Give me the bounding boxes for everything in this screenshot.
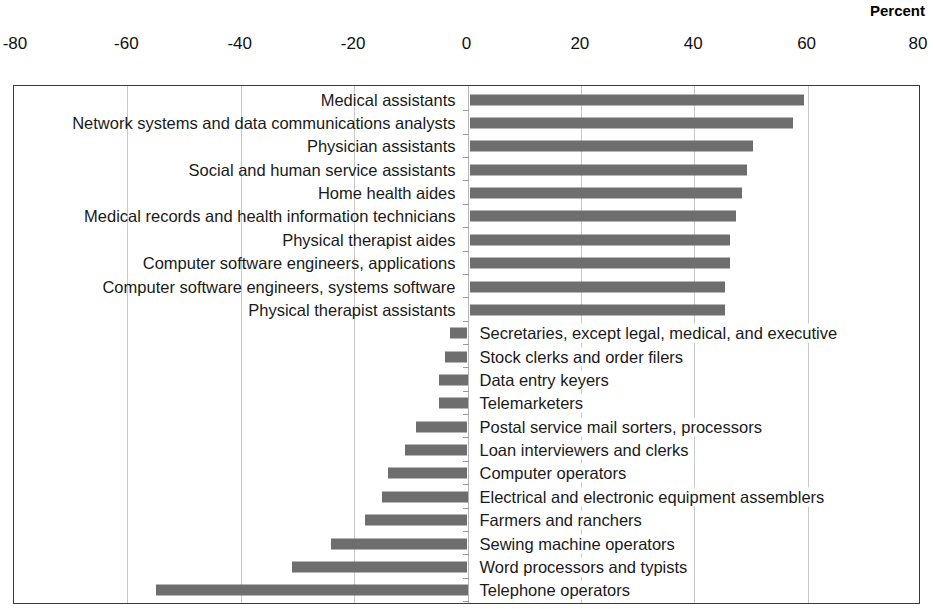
chart-row: Home health aides bbox=[14, 181, 919, 204]
category-label: Network systems and data communications … bbox=[72, 114, 455, 133]
bar bbox=[156, 585, 468, 596]
bar bbox=[470, 94, 804, 105]
chart-row: Data entry keyers bbox=[14, 368, 919, 391]
bar bbox=[470, 211, 736, 222]
category-label: Physician assistants bbox=[307, 137, 456, 156]
bar bbox=[331, 538, 467, 549]
chart-row: Telephone operators bbox=[14, 579, 919, 602]
bar bbox=[382, 491, 467, 502]
x-tick-label-0: 0 bbox=[462, 34, 471, 54]
bar bbox=[292, 561, 468, 572]
chart-row: Computer software engineers, systems sof… bbox=[14, 275, 919, 298]
category-label: Computer software engineers, application… bbox=[143, 254, 456, 273]
x-tick-label-neg20: -20 bbox=[341, 34, 366, 54]
bar bbox=[470, 118, 793, 129]
bar bbox=[365, 515, 467, 526]
bar bbox=[470, 141, 753, 152]
x-tick-label-40: 40 bbox=[684, 34, 703, 54]
category-label: Word processors and typists bbox=[476, 557, 688, 576]
x-tick-label-neg40: -40 bbox=[227, 34, 252, 54]
chart-row: Telemarketers bbox=[14, 392, 919, 415]
bar bbox=[416, 421, 467, 432]
bar bbox=[450, 328, 467, 339]
category-label: Data entry keyers bbox=[476, 371, 609, 390]
category-label: Postal service mail sorters, processors bbox=[476, 417, 762, 436]
x-tick-label-80: 80 bbox=[909, 34, 928, 54]
chart-row: Network systems and data communications … bbox=[14, 111, 919, 134]
x-tick-label-neg80: -80 bbox=[3, 34, 28, 54]
category-label: Medical records and health information t… bbox=[84, 207, 455, 226]
chart-row: Loan interviewers and clerks bbox=[14, 438, 919, 461]
chart-row: Farmers and ranchers bbox=[14, 509, 919, 532]
chart-row: Physician assistants bbox=[14, 135, 919, 158]
bar bbox=[470, 164, 748, 175]
bar bbox=[470, 234, 731, 245]
chart-row: Physical therapist assistants bbox=[14, 298, 919, 321]
bar bbox=[470, 188, 742, 199]
category-label: Electrical and electronic equipment asse… bbox=[476, 487, 825, 506]
x-tick-label-neg60: -60 bbox=[114, 34, 139, 54]
chart-row: Social and human service assistants bbox=[14, 158, 919, 181]
chart-row: Postal service mail sorters, processors bbox=[14, 415, 919, 438]
x-tick-label-60: 60 bbox=[797, 34, 816, 54]
chart-row: Computer operators bbox=[14, 462, 919, 485]
row-tick-stub bbox=[463, 601, 469, 602]
category-label: Social and human service assistants bbox=[189, 160, 456, 179]
bar bbox=[439, 398, 467, 409]
category-label: Physical therapist assistants bbox=[248, 300, 455, 319]
chart-row: Physical therapist aides bbox=[14, 228, 919, 251]
chart-row: Sewing machine operators bbox=[14, 532, 919, 555]
category-label: Medical assistants bbox=[321, 90, 456, 109]
category-label: Telephone operators bbox=[476, 581, 630, 600]
category-label: Computer operators bbox=[476, 464, 627, 483]
category-label: Telemarketers bbox=[476, 394, 584, 413]
bar bbox=[470, 281, 725, 292]
chart-row: Secretaries, except legal, medical, and … bbox=[14, 322, 919, 345]
x-tick-label-20: 20 bbox=[570, 34, 589, 54]
category-label: Home health aides bbox=[318, 184, 456, 203]
bar bbox=[445, 351, 468, 362]
category-label: Computer software engineers, systems sof… bbox=[102, 277, 455, 296]
bar bbox=[470, 258, 731, 269]
bar bbox=[439, 375, 467, 386]
bar bbox=[388, 468, 467, 479]
category-label: Physical therapist aides bbox=[282, 230, 455, 249]
chart-row: Medical records and health information t… bbox=[14, 205, 919, 228]
category-label: Sewing machine operators bbox=[476, 534, 675, 553]
category-label: Stock clerks and order filers bbox=[476, 347, 684, 366]
chart-row: Stock clerks and order filers bbox=[14, 345, 919, 368]
bar bbox=[470, 304, 725, 315]
plot-area: Medical assistantsNetwork systems and da… bbox=[13, 85, 920, 604]
category-label: Loan interviewers and clerks bbox=[476, 441, 689, 460]
percent-axis-title: Percent bbox=[870, 2, 925, 19]
plot-inner: Medical assistantsNetwork systems and da… bbox=[14, 86, 919, 603]
bar bbox=[405, 445, 467, 456]
chart-row: Electrical and electronic equipment asse… bbox=[14, 485, 919, 508]
category-label: Secretaries, except legal, medical, and … bbox=[476, 324, 838, 343]
chart-row: Medical assistants bbox=[14, 88, 919, 111]
chart-row: Computer software engineers, application… bbox=[14, 252, 919, 275]
chart-row: Word processors and typists bbox=[14, 555, 919, 578]
x-axis-tick-labels: -80-60-40-20020406080 bbox=[0, 34, 933, 60]
category-label: Farmers and ranchers bbox=[476, 511, 642, 530]
chart-root: Percent -80-60-40-20020406080 Medical as… bbox=[0, 0, 933, 609]
